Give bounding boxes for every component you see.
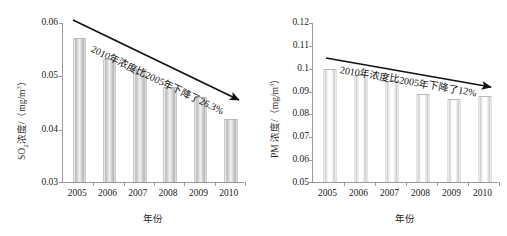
chart-panel-so2: SO2浓度/（mg/m3） 0.06 0.05 0.04 0.03 (0, 0, 253, 236)
y-tick-label: 0.1 (297, 64, 309, 74)
y-tick-label: 0.06 (292, 155, 309, 165)
plot-area-so2: 2010年浓度比2005年下降了26.3% (62, 23, 244, 183)
chart-panel-pm: PM 浓度/（mg/m3） 0.12 0.11 0.1 0.09 0.08 0.… (253, 0, 507, 236)
plot-area-pm: 2010年浓度比2005年下降了12% (312, 23, 498, 183)
x-tick-label: 2006 (349, 189, 368, 199)
y-tick-label: 0.12 (292, 18, 309, 28)
y-tick-label: 0.04 (41, 125, 58, 135)
y-tick-label: 0.07 (292, 133, 309, 143)
x-tick-label: 2009 (442, 189, 461, 199)
y-tick-label: 0.09 (292, 87, 309, 97)
y-tick-labels-pm: 0.12 0.11 0.1 0.09 0.08 0.07 0.06 0.05 (275, 0, 309, 236)
y-tick-label: 0.08 (292, 110, 309, 120)
y-tick-label: 0.03 (41, 178, 58, 188)
x-tick-label: 2007 (380, 189, 399, 199)
x-tick-label: 2010 (473, 189, 492, 199)
x-tick-label: 2008 (411, 189, 430, 199)
x-tick-label: 2009 (189, 189, 208, 199)
y-tick-label: 0.06 (41, 18, 58, 28)
y-tick-labels-so2: 0.06 0.05 0.04 0.03 (24, 0, 58, 236)
x-axis-title-pm: 年份 (395, 211, 415, 225)
x-tick-label: 2006 (98, 189, 117, 199)
x-tick-label: 2007 (128, 189, 147, 199)
x-axis-title-so2: 年份 (143, 211, 163, 225)
x-tick-label: 2005 (318, 189, 337, 199)
x-tick-label: 2005 (68, 189, 87, 199)
annotation-arrow-pm (313, 23, 499, 183)
x-tick-label: 2010 (219, 189, 238, 199)
figure-container: SO2浓度/（mg/m3） 0.06 0.05 0.04 0.03 (0, 0, 507, 236)
x-axis-tick (499, 182, 500, 186)
y-tick-label: 0.11 (293, 41, 309, 51)
x-tick-label: 2008 (159, 189, 178, 199)
y-tick-label: 0.05 (292, 178, 309, 188)
y-tick-label: 0.05 (41, 72, 58, 82)
